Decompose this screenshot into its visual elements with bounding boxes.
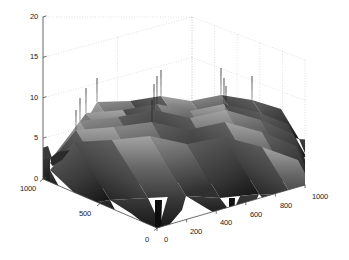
surface-plot-3d — [0, 0, 349, 260]
x-tick-800: 800 — [280, 202, 292, 210]
y-tick-0: 0 — [145, 236, 149, 244]
z-tick-10: 10 — [30, 94, 38, 102]
x-tick-400: 400 — [220, 219, 232, 227]
y-tick-1000: 1000 — [20, 185, 36, 193]
z-tick-0: 0 — [34, 175, 38, 183]
y-tick-500: 500 — [79, 210, 91, 218]
figure-canvas: 20 15 10 5 0 1000 500 0 0 200 400 600 80… — [0, 0, 349, 260]
z-tick-15: 15 — [30, 53, 38, 61]
x-tick-200: 200 — [190, 228, 202, 236]
x-tick-600: 600 — [250, 211, 262, 219]
z-tick-5: 5 — [34, 134, 38, 142]
x-tick-1000: 1000 — [312, 193, 328, 201]
z-tick-20: 20 — [30, 13, 38, 21]
x-tick-0: 0 — [164, 236, 168, 244]
